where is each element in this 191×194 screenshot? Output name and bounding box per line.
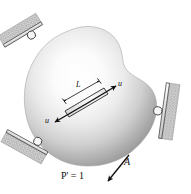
label-member-length: L [76,81,80,89]
label-applied-load: P' = 1 [61,171,84,181]
support-right-roller [150,82,180,141]
diagram-canvas [0,0,191,194]
label-force-left: u [45,117,49,125]
label-force-right: u [118,80,122,88]
label-point-a: A [124,157,130,167]
virtual-work-diagram: u u L A P' = 1 [0,0,191,194]
support-top-left-roller [0,13,46,53]
